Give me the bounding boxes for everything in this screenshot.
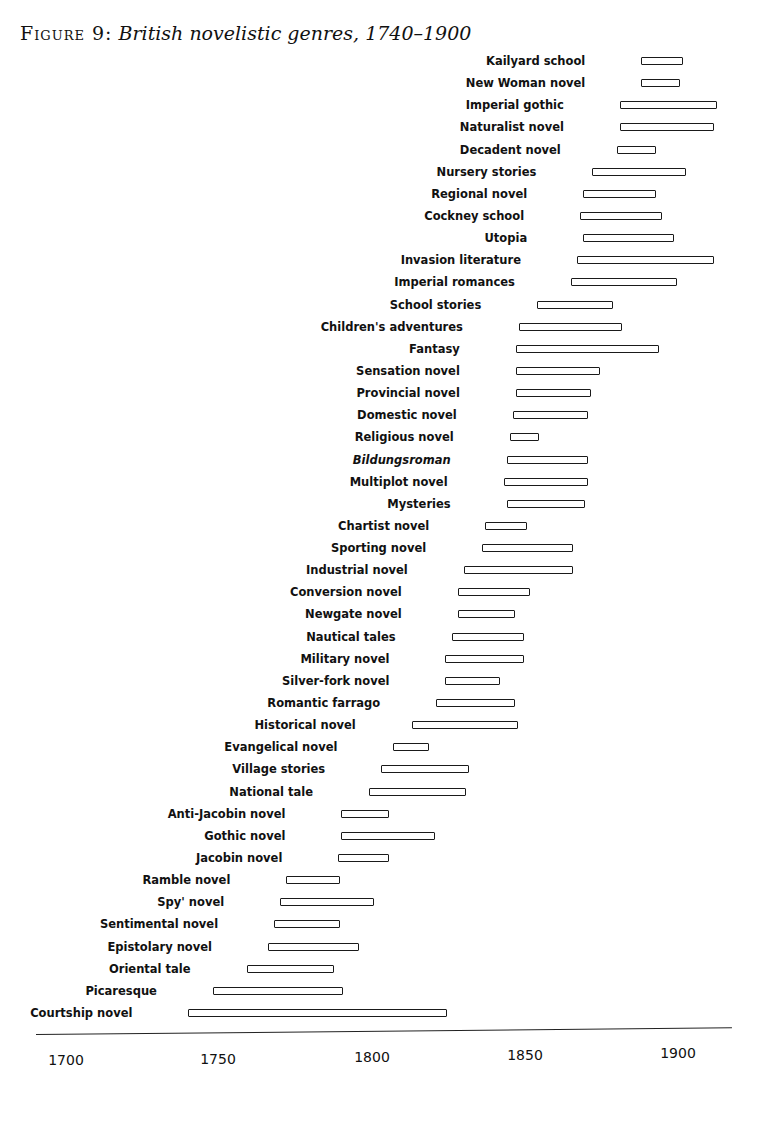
genre-label: School stories bbox=[390, 298, 482, 312]
genre-bar bbox=[516, 389, 592, 397]
genre-label: Nursery stories bbox=[437, 165, 537, 179]
genre-label: Imperial gothic bbox=[466, 98, 564, 112]
genre-bar bbox=[445, 677, 499, 685]
genre-bar bbox=[381, 765, 469, 773]
genre-label: Sensation novel bbox=[356, 364, 460, 378]
genre-bar bbox=[369, 788, 466, 796]
genre-label: Historical novel bbox=[255, 718, 356, 732]
genre-label: Ramble novel bbox=[142, 873, 230, 887]
genre-bar bbox=[537, 301, 613, 309]
genre-bar bbox=[620, 101, 717, 109]
genre-label: Spy' novel bbox=[157, 895, 224, 909]
genre-label: Invasion literature bbox=[401, 253, 521, 267]
x-axis-line bbox=[36, 1027, 732, 1035]
genre-label: Industrial novel bbox=[306, 563, 408, 577]
genre-label: New Woman novel bbox=[466, 76, 586, 90]
genre-label: Gothic novel bbox=[204, 829, 285, 843]
genre-label: Imperial romances bbox=[394, 275, 515, 289]
genre-bar bbox=[436, 699, 515, 707]
x-tick-label: 1700 bbox=[48, 1052, 84, 1068]
genre-bar bbox=[286, 876, 340, 884]
genre-label: Military novel bbox=[300, 652, 389, 666]
genre-bar bbox=[280, 898, 374, 906]
genre-label: Jacobin novel bbox=[196, 851, 282, 865]
genre-bar bbox=[580, 212, 662, 220]
genre-bar bbox=[452, 633, 524, 641]
x-tick-label: 1800 bbox=[354, 1049, 390, 1065]
genre-bar bbox=[504, 478, 589, 486]
genre-label: Village stories bbox=[232, 762, 325, 776]
genre-label: Domestic novel bbox=[357, 408, 457, 422]
genre-bar bbox=[516, 345, 659, 353]
genre-bar bbox=[583, 234, 674, 242]
figure-caption: British novelistic genres, 1740–1900 bbox=[119, 22, 472, 44]
genre-label: Nautical tales bbox=[306, 630, 395, 644]
genre-label: Fantasy bbox=[409, 342, 460, 356]
genre-label: Cockney school bbox=[424, 209, 524, 223]
genre-label: Children's adventures bbox=[321, 320, 463, 334]
genre-bar bbox=[617, 146, 656, 154]
genre-bar bbox=[213, 987, 344, 995]
genre-bar bbox=[513, 411, 589, 419]
genre-label: Epistolary novel bbox=[107, 940, 211, 954]
genre-label: Chartist novel bbox=[338, 519, 429, 533]
genre-bar bbox=[188, 1009, 447, 1017]
genre-bar bbox=[247, 965, 335, 973]
genre-bar bbox=[507, 500, 586, 508]
genre-label: Religious novel bbox=[355, 430, 454, 444]
genre-bar bbox=[507, 456, 589, 464]
genre-bar bbox=[620, 123, 714, 131]
genre-bar bbox=[458, 610, 515, 618]
genre-label: Oriental tale bbox=[109, 962, 191, 976]
genre-label: Courtship novel bbox=[30, 1006, 132, 1020]
genre-label: Provincial novel bbox=[356, 386, 459, 400]
genre-bar bbox=[341, 810, 389, 818]
genre-label: Decadent novel bbox=[460, 143, 561, 157]
genre-label: Multiplot novel bbox=[350, 475, 448, 489]
genre-label: Naturalist novel bbox=[460, 120, 564, 134]
genre-label: Anti-Jacobin novel bbox=[168, 807, 286, 821]
x-tick-label: 1900 bbox=[660, 1045, 696, 1061]
chart-title: Figure 9: British novelistic genres, 174… bbox=[20, 22, 471, 44]
genre-label: Picaresque bbox=[85, 984, 156, 998]
figure-number: Figure 9: bbox=[20, 22, 112, 44]
genre-label: Conversion novel bbox=[290, 585, 402, 599]
genre-bar bbox=[338, 854, 389, 862]
genre-bar bbox=[445, 655, 524, 663]
genre-label: Sporting novel bbox=[331, 541, 426, 555]
genre-bar bbox=[592, 168, 686, 176]
x-tick-label: 1750 bbox=[200, 1051, 236, 1067]
genre-bar bbox=[519, 323, 622, 331]
genre-bar bbox=[268, 943, 359, 951]
genre-bar bbox=[571, 278, 677, 286]
genre-bar bbox=[482, 544, 573, 552]
x-tick-label: 1850 bbox=[507, 1047, 543, 1063]
genre-label: Utopia bbox=[484, 231, 527, 245]
genre-label: Sentimental novel bbox=[100, 917, 218, 931]
genre-bar bbox=[641, 57, 683, 65]
genre-label: Mysteries bbox=[387, 497, 450, 511]
genre-bar bbox=[510, 433, 540, 441]
genre-label: Evangelical novel bbox=[224, 740, 337, 754]
genre-label: Romantic farrago bbox=[267, 696, 380, 710]
genre-label: Newgate novel bbox=[305, 607, 402, 621]
genre-bar bbox=[274, 920, 340, 928]
genre-bar bbox=[464, 566, 573, 574]
genre-bar bbox=[577, 256, 714, 264]
genre-label: Regional novel bbox=[431, 187, 527, 201]
genre-bar bbox=[412, 721, 518, 729]
genre-label: Bildungsroman bbox=[353, 453, 451, 467]
genre-bar bbox=[485, 522, 527, 530]
genre-bar bbox=[341, 832, 435, 840]
genre-bar bbox=[458, 588, 530, 596]
genre-bar bbox=[583, 190, 655, 198]
genre-label: Silver-fork novel bbox=[282, 674, 389, 688]
genre-label: National tale bbox=[229, 785, 313, 799]
genre-label: Kailyard school bbox=[486, 54, 585, 68]
genre-bar bbox=[393, 743, 429, 751]
genre-bar bbox=[641, 79, 680, 87]
genre-bar bbox=[516, 367, 601, 375]
